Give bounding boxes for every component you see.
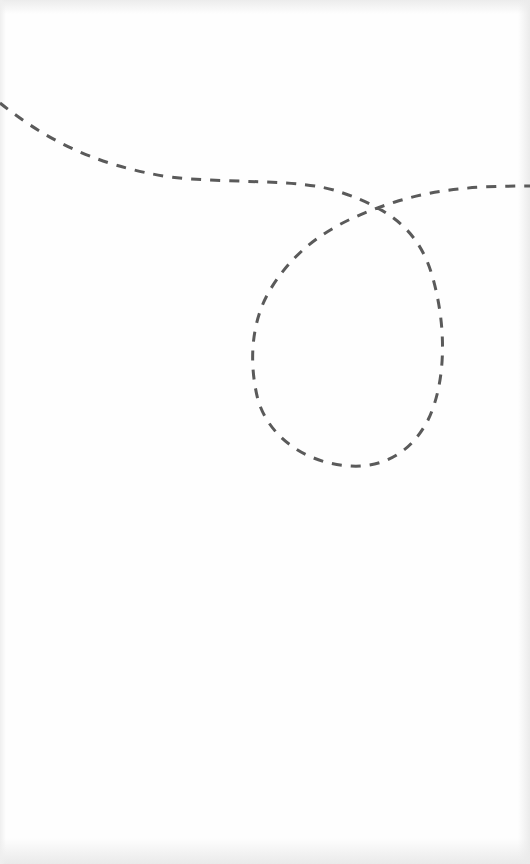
scanned-page: [0, 0, 530, 864]
diagram-canvas: [0, 0, 530, 864]
dashed-loop-curve: [0, 103, 530, 466]
